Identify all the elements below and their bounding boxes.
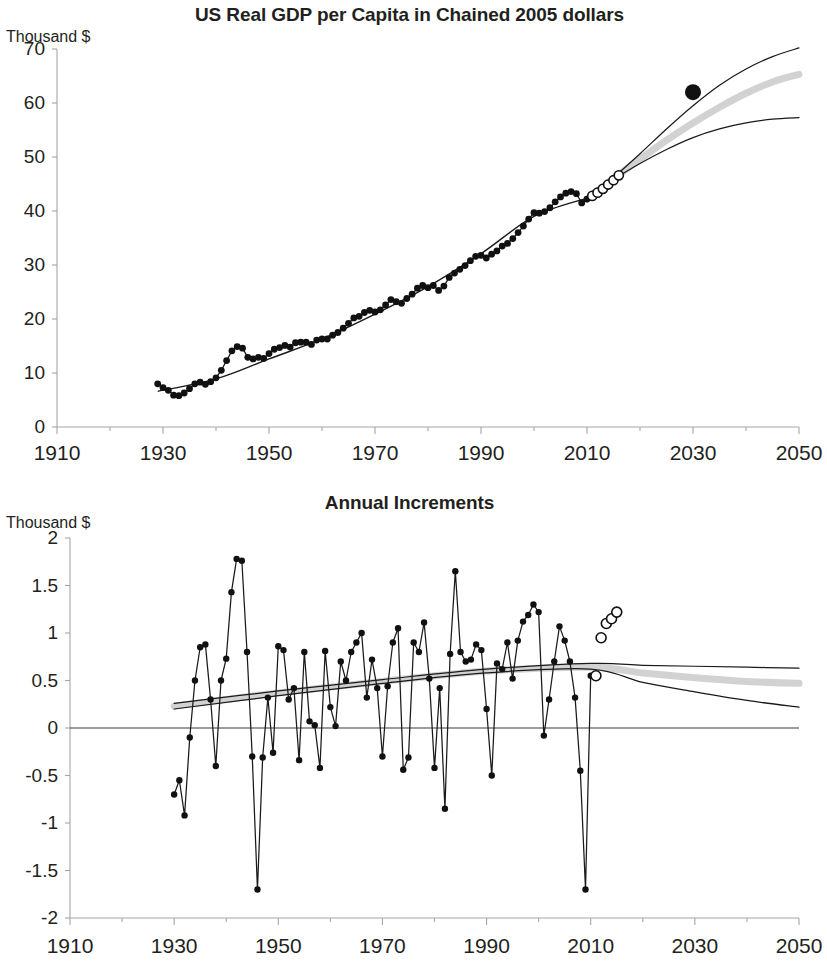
data-point-marker — [525, 612, 531, 618]
x-axis-tick-label: 1910 — [17, 441, 97, 465]
data-point-marker — [265, 694, 271, 700]
data-point-marker — [308, 341, 315, 348]
data-point-marker — [515, 229, 522, 236]
data-point-marker — [171, 791, 177, 797]
data-point-marker — [287, 344, 294, 351]
data-point-marker — [489, 772, 495, 778]
data-point-marker — [260, 355, 267, 362]
x-axis-tick-label: 1950 — [229, 441, 309, 465]
data-point-marker — [499, 666, 505, 672]
data-point-marker — [296, 757, 302, 763]
data-point-marker — [187, 734, 193, 740]
y-axis-tick-label: -2 — [12, 907, 58, 929]
data-point-marker — [343, 677, 349, 683]
data-point-marker — [457, 649, 463, 655]
data-point-marker — [223, 357, 230, 364]
data-point-marker — [259, 754, 265, 760]
x-axis-tick-label: 1990 — [447, 934, 527, 958]
data-point-marker — [275, 643, 281, 649]
x-axis-tick-label: 2050 — [759, 934, 827, 958]
data-point-marker — [223, 655, 229, 661]
data-point-marker — [390, 639, 396, 645]
data-point-marker — [473, 641, 479, 647]
data-point-marker — [541, 732, 547, 738]
plot-area-annual-increments — [0, 488, 819, 976]
data-point-marker — [213, 763, 219, 769]
data-point-marker — [442, 806, 448, 812]
data-point-marker — [494, 248, 501, 255]
forecast-point-marker — [614, 171, 623, 180]
data-point-marker — [270, 750, 276, 756]
forecast-point-marker — [596, 633, 606, 643]
forecast-point-marker — [591, 671, 601, 681]
data-point-marker — [312, 722, 318, 728]
data-point-marker — [306, 718, 312, 724]
data-point-marker — [504, 240, 511, 247]
data-point-marker — [478, 647, 484, 653]
data-point-marker — [572, 694, 578, 700]
data-point-marker — [447, 651, 453, 657]
y-axis-tick-label: -1.5 — [12, 860, 58, 882]
x-axis-tick-label: 2010 — [547, 441, 627, 465]
data-point-marker — [483, 706, 489, 712]
data-point-marker — [348, 649, 354, 655]
data-point-marker — [327, 704, 333, 710]
data-point-marker — [338, 658, 344, 664]
data-point-marker — [462, 262, 469, 269]
data-point-marker — [254, 886, 260, 892]
data-point-marker — [446, 274, 453, 281]
data-point-marker — [249, 753, 255, 759]
y-axis-tick-label: 0 — [0, 416, 45, 438]
data-series-line — [174, 559, 591, 890]
data-point-marker — [382, 302, 389, 309]
data-point-marker — [379, 753, 385, 759]
data-point-marker — [509, 675, 515, 681]
data-point-marker — [435, 287, 442, 294]
y-axis-tick-label: 20 — [0, 308, 45, 330]
y-axis-tick-label: 1.5 — [12, 575, 58, 597]
data-point-marker — [530, 601, 536, 607]
data-point-marker — [509, 235, 516, 242]
data-series-line — [158, 192, 587, 396]
projection-bound-line — [587, 118, 799, 200]
y-axis-tick-label: 30 — [0, 254, 45, 276]
data-point-marker — [181, 812, 187, 818]
y-axis-tick-label: 50 — [0, 146, 45, 168]
x-axis-tick-label: 2030 — [655, 934, 735, 958]
data-point-marker — [577, 768, 583, 774]
data-point-marker — [567, 658, 573, 664]
y-axis-tick-label: 1 — [12, 622, 58, 644]
data-point-marker — [266, 350, 273, 357]
data-point-marker — [561, 637, 567, 643]
data-point-marker — [395, 625, 401, 631]
data-point-marker — [353, 639, 359, 645]
forecast-point-marker — [612, 607, 622, 617]
data-point-marker — [403, 295, 410, 302]
data-point-marker — [384, 683, 390, 689]
data-point-marker — [218, 677, 224, 683]
x-axis-tick-label: 2030 — [653, 441, 733, 465]
data-point-marker — [431, 765, 437, 771]
plot-area-gdp-per-capita — [0, 0, 819, 488]
data-point-marker — [546, 696, 552, 702]
data-point-marker — [186, 385, 193, 392]
data-point-marker — [176, 777, 182, 783]
data-point-marker — [239, 558, 245, 564]
y-axis-tick-label: 2 — [12, 527, 58, 549]
data-point-marker — [369, 656, 375, 662]
data-point-marker — [218, 367, 225, 374]
data-point-marker — [345, 320, 352, 327]
y-axis-tick-label: -0.5 — [12, 765, 58, 787]
y-axis-tick-label: -1 — [12, 812, 58, 834]
data-point-marker — [364, 694, 370, 700]
data-point-marker — [520, 223, 527, 230]
x-axis-tick-label: 1930 — [123, 441, 203, 465]
chart-panel-annual-increments: Annual Increments Thousand $ 21.510.50-0… — [0, 488, 819, 976]
y-axis-tick-label: 60 — [0, 92, 45, 114]
x-axis-tick-label: 1990 — [441, 441, 521, 465]
data-point-marker — [416, 649, 422, 655]
x-axis-tick-label: 2050 — [759, 441, 827, 465]
x-axis-tick-label: 2010 — [551, 934, 631, 958]
data-point-marker — [228, 589, 234, 595]
